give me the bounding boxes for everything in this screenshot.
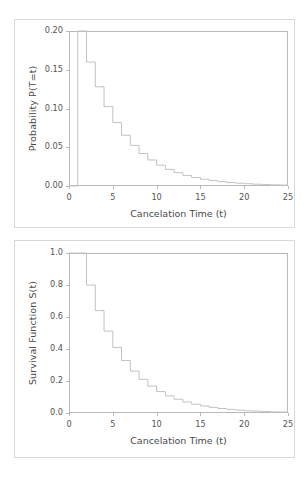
x-tick-label: 20	[229, 419, 259, 429]
step-line	[69, 31, 288, 186]
x-tick-label: 20	[229, 192, 259, 202]
x-tick-label: 0	[54, 192, 84, 202]
x-tick-label: 25	[273, 419, 303, 429]
x-tick-label: 5	[98, 419, 128, 429]
x-tick-label: 10	[142, 419, 172, 429]
x-axis-label: Cancelation Time (t)	[69, 435, 288, 446]
x-tick-label: 15	[185, 419, 215, 429]
x-tick-label: 0	[54, 419, 84, 429]
chart-panel-survival: 0.00.20.40.60.81.00510152025Cancelation …	[14, 240, 295, 458]
step-line	[69, 253, 288, 412]
series-survival	[15, 241, 294, 419]
figure-container: 0.000.050.100.150.200510152025Cancelatio…	[0, 0, 308, 478]
x-tick-label: 15	[185, 192, 215, 202]
x-tick-label: 10	[142, 192, 172, 202]
x-tick-label: 25	[273, 192, 303, 202]
series-pmf	[15, 20, 294, 192]
x-axis-label: Cancelation Time (t)	[69, 208, 288, 219]
chart-panel-pmf: 0.000.050.100.150.200510152025Cancelatio…	[14, 19, 295, 228]
x-tick-label: 5	[98, 192, 128, 202]
